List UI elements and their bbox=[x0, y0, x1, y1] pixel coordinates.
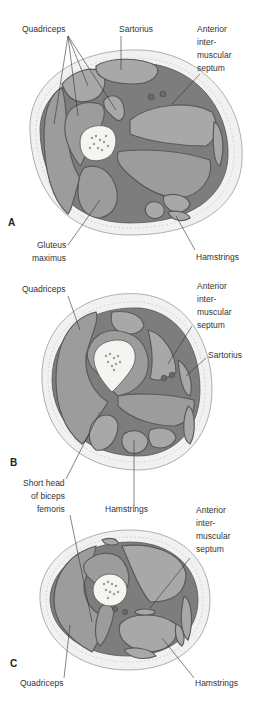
panel-a-femur bbox=[80, 126, 116, 161]
panel-a-label-sartorius: Sartorius bbox=[119, 24, 153, 34]
panel-a-label-septum-1: Anterior bbox=[197, 24, 227, 34]
panel-a-hamstrings-1 bbox=[145, 202, 164, 219]
panel-a-label-gluteus-2: maximus bbox=[32, 253, 66, 263]
panel-b-label-septum-2: inter- bbox=[197, 294, 217, 304]
panel-c-label-septum-1: Anterior bbox=[196, 505, 226, 515]
panel-b-label-hamstrings: Hamstrings bbox=[105, 504, 148, 514]
panel-b-label-quadriceps: Quadriceps bbox=[22, 284, 65, 294]
panel-c-label-septum-4: septum bbox=[196, 544, 224, 554]
panel-c: Anterior inter- muscular septum C Quadri… bbox=[10, 505, 238, 688]
panel-b-label-septum-3: muscular bbox=[197, 307, 232, 317]
panel-b-label-septum-1: Anterior bbox=[197, 281, 227, 291]
panel-a-label-gluteus-1: Gluteus bbox=[37, 240, 66, 250]
panel-c-septum-structure bbox=[135, 609, 155, 615]
panel-a-femoral-artery bbox=[148, 94, 154, 100]
panel-c-label-quadriceps: Quadriceps bbox=[20, 678, 63, 688]
panel-a-femoral-vein bbox=[160, 91, 166, 97]
panel-b-label-short-head-3: femoris bbox=[37, 504, 65, 514]
panel-b-hamstring-2 bbox=[122, 431, 148, 454]
panel-a-label-quadriceps: Quadriceps bbox=[22, 24, 65, 34]
panel-b-label-short-head-2: of biceps bbox=[31, 491, 65, 501]
panel-c-femur bbox=[93, 574, 127, 606]
panel-a-letter: A bbox=[8, 217, 15, 228]
thigh-cross-section-diagram: Quadriceps Sartorius Anterior inter- mus… bbox=[0, 0, 254, 703]
panel-c-label-septum-3: muscular bbox=[196, 531, 231, 541]
panel-b-label-short-head-1: Short head bbox=[23, 478, 65, 488]
panel-b-gracilis bbox=[184, 406, 195, 444]
panel-a-label-hamstrings: Hamstrings bbox=[196, 252, 239, 262]
panel-b-letter: B bbox=[10, 457, 17, 468]
panel-b-femoral-vein bbox=[169, 372, 175, 378]
panel-b: Quadriceps Anterior inter- muscular sept… bbox=[10, 281, 242, 514]
panel-b-label-sartorius: Sartorius bbox=[208, 350, 242, 360]
panel-a-label-septum-3: muscular bbox=[197, 50, 232, 60]
panel-c-popliteal-vein bbox=[122, 609, 127, 614]
panel-b-femoral-artery bbox=[161, 375, 167, 381]
panel-a-label-septum-4: septum bbox=[197, 63, 225, 73]
panel-c-label-septum-2: inter- bbox=[196, 518, 216, 528]
panel-c-label-hamstrings: Hamstrings bbox=[195, 678, 238, 688]
panel-a: Quadriceps Sartorius Anterior inter- mus… bbox=[8, 24, 242, 263]
panel-c-letter: C bbox=[10, 658, 17, 669]
panel-a-label-septum-2: inter- bbox=[197, 37, 217, 47]
panel-c-popliteal-artery bbox=[112, 606, 117, 611]
panel-b-label-septum-4: septum bbox=[197, 320, 225, 330]
